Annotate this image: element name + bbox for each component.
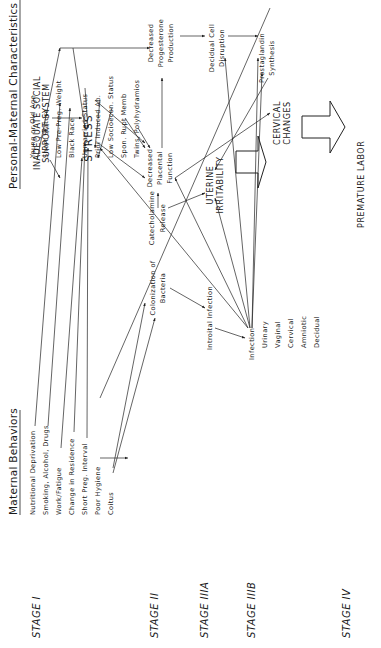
stage-label: STAGE IIIB <box>246 582 257 638</box>
header-behaviors: Maternal Behaviors <box>7 408 20 515</box>
list-item: Work/Fatigue <box>55 467 63 515</box>
stage-label: STAGE IV <box>341 588 352 638</box>
svg-text:Infection: Infection <box>248 328 256 360</box>
svg-text:Decidual Cell: Decidual Cell <box>208 24 216 72</box>
svg-text:UTERINE: UTERINE <box>206 166 215 205</box>
svg-text:Decreased: Decreased <box>146 149 154 188</box>
svg-text:Introital Infection: Introital Infection <box>206 286 214 350</box>
stage-label: STAGE I <box>31 596 42 638</box>
node-placental: Decreased Placental Function <box>146 149 174 188</box>
stage-labels: STAGE I STAGE II STAGE IIIA STAGE IIIB S… <box>31 582 352 638</box>
svg-text:Cervical: Cervical <box>287 318 295 348</box>
node-cervical-changes: CERVICAL CHANGES <box>273 101 292 145</box>
maternal-behaviors-list: Nutritional Deprivation Smoking, Alcohol… <box>29 425 115 515</box>
list-item: Twins, Polyhydramios <box>133 80 141 159</box>
svg-text:Vaginal: Vaginal <box>274 321 282 348</box>
svg-text:Placental: Placental <box>156 151 164 185</box>
stage-label: STAGE IIIA <box>199 582 210 638</box>
svg-text:Colonization of: Colonization of <box>149 260 157 315</box>
node-progesterone: Decreased Progesterone Production <box>147 19 175 67</box>
node-uterine-irritability: UTERINE IRRITABILITY <box>206 156 225 213</box>
svg-text:Decidual: Decidual <box>313 316 321 348</box>
svg-text:PREMATURE LABOR: PREMATURE LABOR <box>357 141 366 228</box>
node-social-support: INADEQUATE SOCIAL SUPPORT SYSTEM <box>33 76 51 170</box>
svg-text:Maternal Behaviors: Maternal Behaviors <box>7 408 19 515</box>
list-item: Nutritional Deprivation <box>29 431 37 515</box>
list-item: Coitus <box>107 492 115 515</box>
svg-text:Production: Production <box>167 23 175 62</box>
svg-text:Catecholamine: Catecholamine <box>148 191 156 246</box>
svg-text:Function: Function <box>166 152 174 183</box>
node-infection: Infection Urinary Vaginal Cervical Amnio… <box>248 316 321 360</box>
svg-text:CHANGES: CHANGES <box>283 101 292 145</box>
svg-text:Amniotic: Amniotic <box>300 316 308 348</box>
node-prostaglandin: Prostaglandin Synthesis <box>258 33 276 83</box>
svg-text:Synthesis: Synthesis <box>268 40 276 76</box>
svg-text:CERVICAL: CERVICAL <box>273 101 282 145</box>
node-premature-labor: PREMATURE LABOR <box>357 141 366 228</box>
list-item: Low Socioecon. Status <box>107 76 115 158</box>
svg-text:SUPPORT SYSTEM: SUPPORT SYSTEM <box>42 83 51 163</box>
list-item: Change in Residence <box>68 438 76 515</box>
list-item: Poor Hygiene <box>94 466 102 515</box>
list-item: Spon. Rupt Memb <box>120 94 128 158</box>
svg-text:Personal-Maternal Characterist: Personal-Maternal Characteristics <box>7 3 19 189</box>
list-item: Short Preg. Interval <box>81 443 89 515</box>
node-colonization: Colonization of Bacteria <box>149 260 167 315</box>
premature-labor-diagram: Personal-Maternal Characteristics Matern… <box>0 0 381 648</box>
svg-text:Progesterone: Progesterone <box>157 19 165 67</box>
list-item: Smoking, Alcohol, Drugs <box>42 425 50 515</box>
node-introital: Introital Infection <box>206 286 214 350</box>
svg-text:Bacteria: Bacteria <box>159 273 167 304</box>
big-arrow-uterine-to-cervical <box>236 136 266 188</box>
svg-text:IRRITABILITY: IRRITABILITY <box>216 156 225 213</box>
header-personal: Personal-Maternal Characteristics <box>7 0 20 189</box>
svg-text:Disruption: Disruption <box>218 29 226 67</box>
big-arrow-cervical-to-labor <box>302 101 345 153</box>
svg-text:Decreased: Decreased <box>147 24 155 63</box>
node-decidual-cell: Decidual Cell Disruption <box>208 24 226 72</box>
stage-label: STAGE II <box>149 592 160 638</box>
svg-text:Urinary: Urinary <box>261 321 269 348</box>
